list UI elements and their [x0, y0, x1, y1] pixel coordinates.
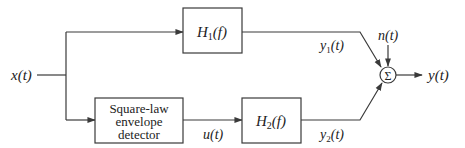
output-label: y(t) [426, 67, 449, 84]
input-label: x(t) [10, 67, 32, 84]
y2-signal-arrow [301, 83, 382, 120]
y1-signal-arrow [242, 32, 381, 67]
y2-signal-label: y2(t) [318, 127, 344, 144]
u-signal-label: u(t) [203, 127, 224, 143]
block-diagram: x(t) H1(f) Square-law envelope detector … [0, 0, 465, 148]
noise-label: n(t) [378, 28, 399, 44]
sigma-icon: Σ [385, 69, 392, 83]
y1-signal-label: y1(t) [318, 38, 344, 55]
detector-line-3: detector [118, 127, 161, 142]
